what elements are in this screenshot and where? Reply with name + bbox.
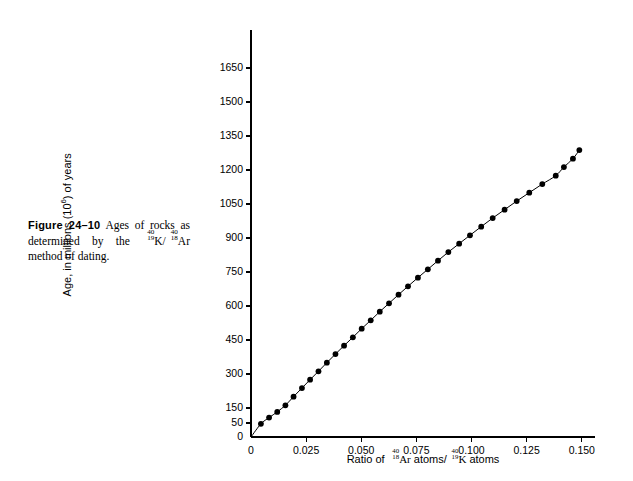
chart-svg bbox=[0, 0, 633, 481]
y-axis-title: Age, in millions (106) of years bbox=[59, 95, 73, 355]
data-point bbox=[274, 409, 280, 415]
data-point bbox=[415, 275, 421, 281]
data-point bbox=[553, 173, 559, 179]
data-point bbox=[341, 343, 347, 349]
y-axis-tick-label: 1350 bbox=[201, 129, 243, 141]
data-point bbox=[266, 415, 272, 421]
data-point bbox=[368, 317, 374, 323]
y-axis-tick-label: 0 bbox=[201, 430, 243, 442]
x-axis-isotope-argon-40: 4018Ar bbox=[388, 452, 411, 465]
data-point bbox=[377, 309, 383, 315]
x-axis-ar-symbol: Ar bbox=[399, 453, 411, 465]
data-point bbox=[283, 402, 289, 408]
y-axis-tick-label: 900 bbox=[201, 231, 243, 243]
x-axis-isotope-potassium-40: 4019K bbox=[447, 452, 467, 465]
data-point bbox=[435, 258, 441, 264]
data-point bbox=[359, 326, 365, 332]
x-axis-title-mid: atoms/ bbox=[411, 453, 447, 465]
data-point bbox=[291, 394, 297, 400]
x-axis-k-symbol: K bbox=[458, 453, 466, 465]
data-point bbox=[514, 198, 520, 204]
data-point bbox=[396, 292, 402, 298]
data-point bbox=[502, 207, 508, 213]
y-axis-tick-label: 50 bbox=[201, 416, 243, 428]
y-axis-tick-label: 1200 bbox=[201, 163, 243, 175]
chart-plot-area: 0501503004506007509001050120013501500165… bbox=[0, 0, 633, 481]
data-point bbox=[258, 421, 264, 427]
x-axis-title-suffix: atoms bbox=[466, 453, 499, 465]
data-point bbox=[405, 283, 411, 289]
figure-page: Figure 24–10 Ages of rocks as determined… bbox=[0, 0, 633, 481]
y-axis-tick-label: 1500 bbox=[201, 95, 243, 107]
data-point bbox=[425, 266, 431, 272]
data-point bbox=[539, 181, 545, 187]
x-axis-title: Ratio of 4018Ar atoms/4019K atoms bbox=[251, 452, 595, 465]
data-point bbox=[350, 334, 356, 340]
y-axis-tick-label: 1050 bbox=[201, 197, 243, 209]
data-point bbox=[299, 385, 305, 391]
chart-axes bbox=[246, 30, 595, 442]
y-axis-title-suffix: ) of years bbox=[61, 153, 73, 199]
data-point bbox=[386, 300, 392, 306]
x-axis-ar-number: 18 bbox=[392, 454, 399, 461]
data-point bbox=[561, 164, 567, 170]
y-axis-tick-label: 750 bbox=[201, 265, 243, 277]
data-point bbox=[576, 147, 582, 153]
data-point bbox=[526, 190, 532, 196]
data-point bbox=[467, 232, 473, 238]
y-axis-title-exponent: 6 bbox=[59, 199, 68, 203]
y-axis-tick-label: 600 bbox=[201, 299, 243, 311]
data-point bbox=[333, 351, 339, 357]
data-point bbox=[490, 215, 496, 221]
y-axis-tick-label: 150 bbox=[201, 401, 243, 413]
x-axis-title-prefix: Ratio of bbox=[347, 453, 388, 465]
data-point bbox=[324, 360, 330, 366]
x-axis-k-number: 19 bbox=[452, 454, 459, 461]
data-point bbox=[478, 224, 484, 230]
y-axis-title-prefix: Age, in millions (10 bbox=[61, 203, 73, 296]
data-point bbox=[456, 241, 462, 247]
y-axis-tick-label: 300 bbox=[201, 367, 243, 379]
y-axis-tick-label: 1650 bbox=[201, 61, 243, 73]
y-axis-tick-label: 450 bbox=[201, 333, 243, 345]
chart-data-points bbox=[258, 147, 582, 427]
data-point bbox=[316, 368, 322, 374]
data-point bbox=[570, 156, 576, 162]
data-point bbox=[445, 249, 451, 255]
data-point bbox=[307, 377, 313, 383]
